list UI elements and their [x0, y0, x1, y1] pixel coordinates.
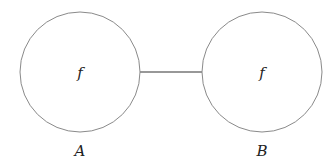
diagram-canvas: f A f B: [0, 0, 336, 168]
node-b-function-label: f: [258, 64, 267, 82]
node-b-name: B: [255, 142, 267, 160]
node-b: f B: [202, 12, 322, 160]
node-a-name: A: [73, 142, 86, 160]
node-a-function-label: f: [76, 64, 85, 82]
node-a: f A: [20, 12, 140, 160]
